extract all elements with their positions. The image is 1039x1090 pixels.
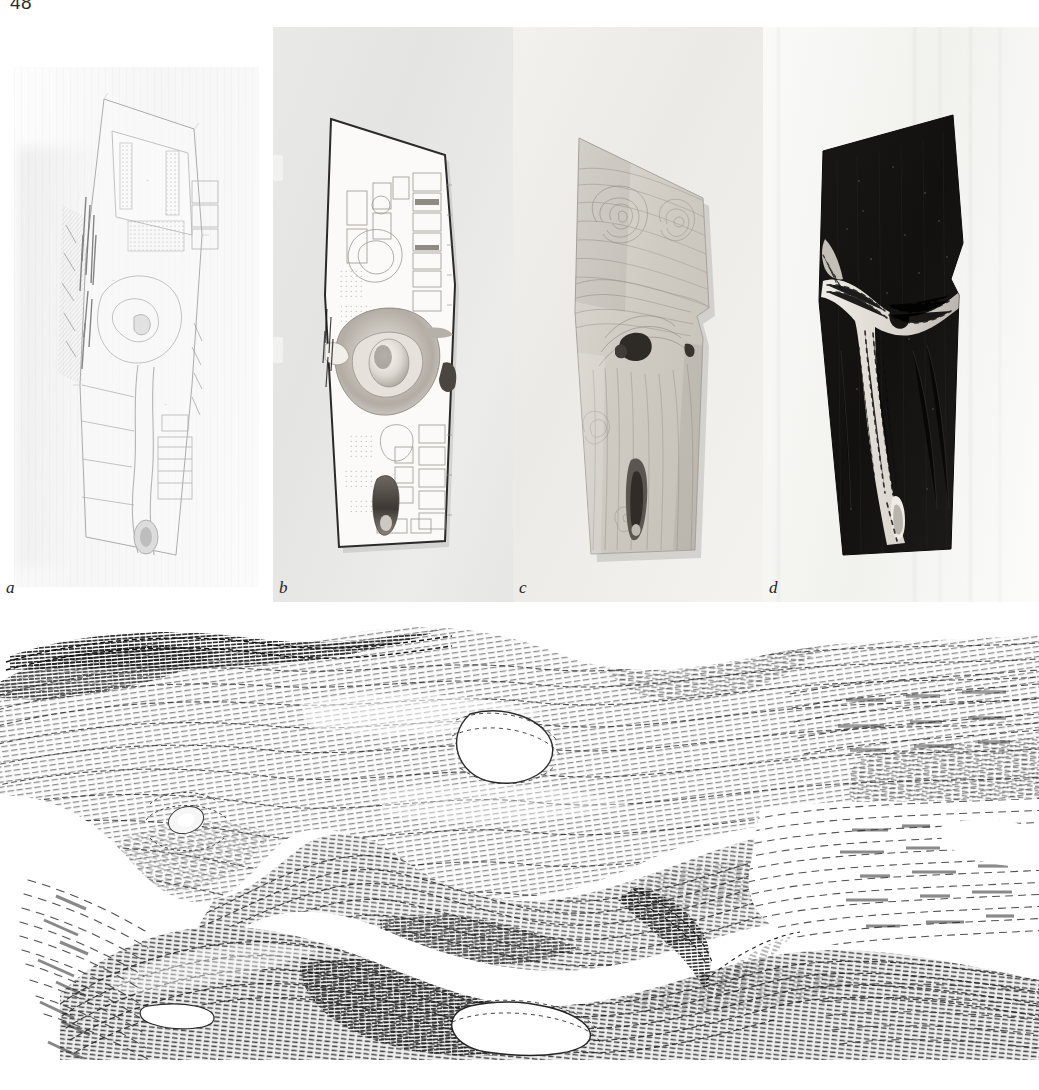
- panel-b-label: b: [279, 578, 288, 598]
- panel-d-backdrop-fold: [999, 27, 1001, 602]
- figure-bottom-render: [0, 608, 1039, 1060]
- figure-panel-d: d: [763, 27, 1039, 602]
- panel-d-label: d: [769, 578, 778, 598]
- panel-d-dark-board: [801, 89, 991, 569]
- page-canvas: 48: [0, 0, 1039, 1090]
- figure-panel-b: b: [273, 27, 513, 602]
- figure-top-row: ▭▭▭ a: [0, 27, 1039, 602]
- figure-panel-a: ▭▭▭ a: [0, 27, 273, 602]
- panel-b-edge-tab: [273, 155, 283, 181]
- svg-text:▭: ▭: [112, 278, 115, 282]
- panel-b-plan-model: [295, 95, 490, 575]
- svg-text:▭: ▭: [146, 178, 149, 182]
- panel-c-label: c: [519, 578, 527, 598]
- panel-a-site-plan-drawing: ▭▭▭: [42, 85, 242, 585]
- svg-text:▭: ▭: [164, 402, 167, 406]
- panel-b-edge-tab: [273, 337, 283, 363]
- panel-c-carved-board: [535, 102, 745, 572]
- hatched-surface-drawing: [0, 608, 1039, 1060]
- figure-panel-c: c: [513, 27, 763, 602]
- panel-d-backdrop-fold: [777, 27, 780, 602]
- page-number: 48: [10, 0, 32, 14]
- panel-a-label: a: [6, 578, 15, 598]
